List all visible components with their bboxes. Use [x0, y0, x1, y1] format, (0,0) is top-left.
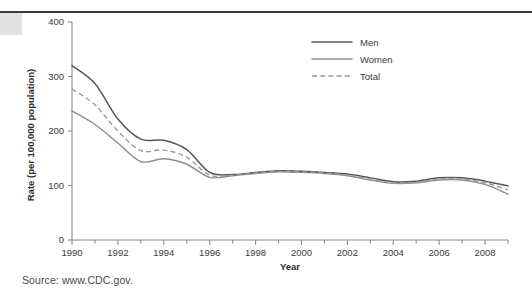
x-tick-label: 1992 — [107, 247, 128, 258]
chart-canvas: 0100200300400 19901992199419961998200020… — [0, 0, 532, 299]
legend-label-women: Women — [360, 54, 393, 65]
legend-label-total: Total — [360, 71, 380, 82]
y-tick-label: 300 — [48, 71, 64, 82]
source-note: Source: www.CDC.gov. — [22, 274, 133, 286]
y-tick-label: 400 — [48, 16, 64, 27]
x-tick-label: 1998 — [245, 247, 266, 258]
y-tick-label: 0 — [59, 234, 64, 245]
y-axis-ticks: 0100200300400 — [48, 16, 72, 245]
y-axis-title: Rate (per 100,000 population) — [25, 69, 36, 202]
x-tick-label: 1990 — [61, 247, 82, 258]
x-axis-title: Year — [280, 261, 300, 272]
chart-axes — [72, 22, 508, 240]
x-tick-label: 2008 — [474, 247, 495, 258]
x-tick-label: 2004 — [383, 247, 404, 258]
figure-page: 0100200300400 19901992199419961998200020… — [0, 0, 532, 299]
series-line-men — [72, 66, 508, 186]
x-tick-label: 1996 — [199, 247, 220, 258]
x-axis-ticks: 1990199219941996199820002002200420062008 — [61, 240, 508, 258]
x-tick-label: 2000 — [291, 247, 312, 258]
chart-legend: Men Women Total — [312, 37, 393, 82]
legend-label-men: Men — [360, 37, 378, 48]
x-tick-label: 1994 — [153, 247, 174, 258]
chart-series-group — [72, 66, 508, 195]
x-tick-label: 2002 — [337, 247, 358, 258]
series-line-total — [72, 89, 508, 190]
series-line-women — [72, 111, 508, 194]
x-tick-label: 2006 — [429, 247, 450, 258]
line-chart: 0100200300400 19901992199419961998200020… — [0, 0, 532, 299]
y-tick-label: 200 — [48, 125, 64, 136]
y-tick-label: 100 — [48, 180, 64, 191]
